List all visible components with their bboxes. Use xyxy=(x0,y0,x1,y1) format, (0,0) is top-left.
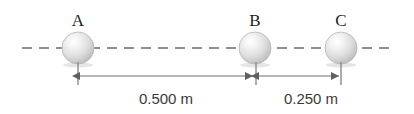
dimension-label-a-b: 0.500 m xyxy=(139,90,193,107)
diagram-canvas: A B C 0.500 m 0.250 m xyxy=(0,0,414,114)
sphere-label-a: A xyxy=(72,11,85,30)
sphere-label-c: C xyxy=(335,11,346,30)
dimension-label-b-c: 0.250 m xyxy=(284,90,338,107)
sphere-b xyxy=(239,32,271,68)
sphere-label-b: B xyxy=(249,11,260,30)
physics-diagram-three-spheres: A B C 0.500 m 0.250 m xyxy=(0,0,414,114)
